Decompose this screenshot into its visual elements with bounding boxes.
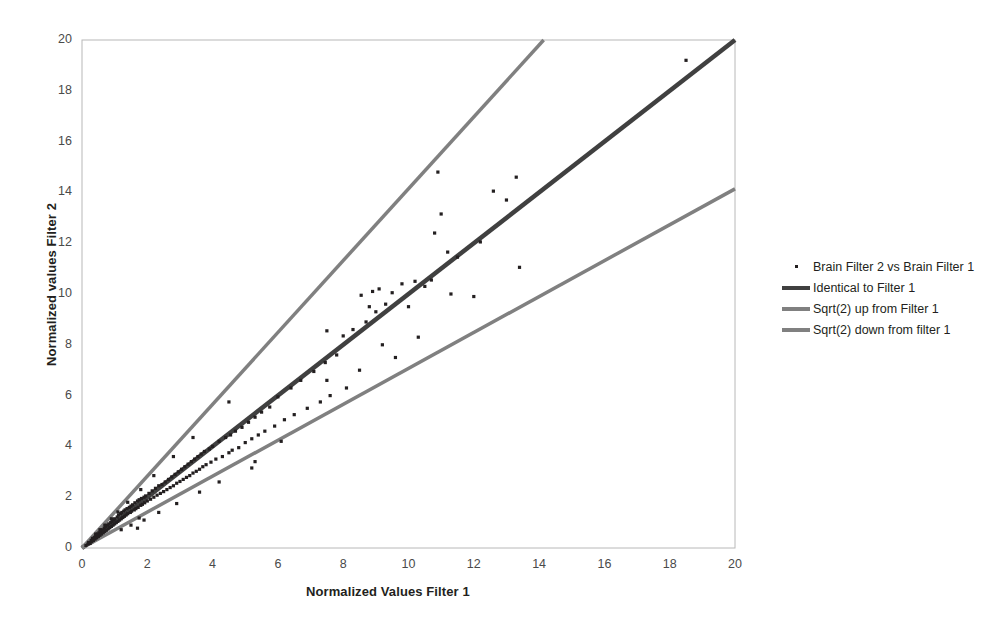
- dot-icon: [795, 265, 798, 268]
- legend-item: Brain Filter 2 vs Brain Filter 1: [779, 256, 1007, 277]
- data-point-markers: [84, 59, 687, 547]
- y-tick-label: 20: [42, 32, 72, 46]
- x-tick-label: 2: [132, 557, 162, 571]
- legend-item: Identical to Filter 1: [779, 277, 1007, 298]
- x-tick-label: 18: [655, 557, 685, 571]
- x-tick-label: 20: [720, 557, 750, 571]
- x-tick-label: 16: [589, 557, 619, 571]
- legend-marker-line-icon: [779, 286, 813, 290]
- line-swatch-icon: [782, 307, 810, 311]
- x-tick-label: 4: [198, 557, 228, 571]
- legend-marker-dot-icon: [779, 265, 813, 268]
- y-tick-label: 18: [42, 83, 72, 97]
- x-tick-label: 14: [524, 557, 554, 571]
- x-tick-label: 0: [67, 557, 97, 571]
- y-tick-label: 4: [42, 438, 72, 452]
- x-tick-label: 12: [459, 557, 489, 571]
- legend-marker-line-icon: [779, 307, 813, 311]
- line-swatch-icon: [782, 328, 810, 332]
- legend-item-label: Identical to Filter 1: [813, 281, 915, 295]
- x-tick-label: 6: [263, 557, 293, 571]
- legend-item-label: Sqrt(2) down from filter 1: [813, 323, 951, 337]
- y-tick-label: 0: [42, 540, 72, 554]
- legend-item-label: Sqrt(2) up from Filter 1: [813, 302, 939, 316]
- y-tick-label: 2: [42, 489, 72, 503]
- x-tick-label: 10: [394, 557, 424, 571]
- line-swatch-icon: [782, 286, 810, 290]
- legend-marker-line-icon: [779, 328, 813, 332]
- legend-item-label: Brain Filter 2 vs Brain Filter 1: [813, 260, 974, 274]
- y-axis-title: Normalized values Filter 2: [44, 175, 59, 395]
- x-tick-label: 8: [328, 557, 358, 571]
- chart-legend: Brain Filter 2 vs Brain Filter 1Identica…: [779, 256, 1007, 340]
- y-tick-label: 16: [42, 134, 72, 148]
- scatter-chart-figure: 02468101214161820 02468101214161820 Norm…: [0, 0, 1007, 622]
- reference-lines: [82, 40, 735, 548]
- legend-item: Sqrt(2) down from filter 1: [779, 319, 1007, 340]
- x-axis-title: Normalized Values Filter 1: [306, 584, 470, 599]
- legend-item: Sqrt(2) up from Filter 1: [779, 298, 1007, 319]
